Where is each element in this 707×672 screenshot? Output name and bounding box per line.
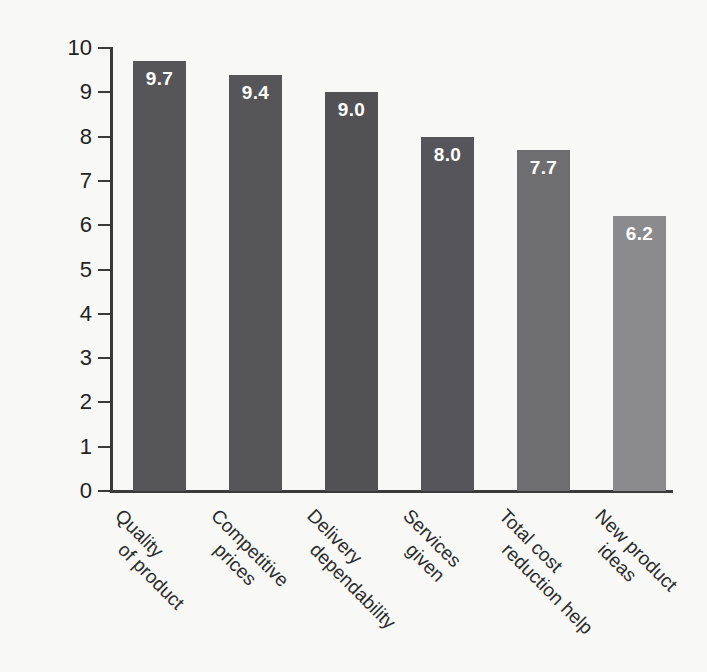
x-axis-category-labels: Qualityof productCompetitivepricesDelive… — [0, 0, 707, 672]
bar-chart-figure: Ranking of Importance 109876543210 9.79.… — [0, 0, 707, 672]
x-axis-category-label: Competitiveprices — [190, 505, 293, 608]
x-axis-category-label: Qualityof product — [94, 505, 204, 615]
x-axis-category-label: Servicesgiven — [382, 505, 465, 588]
